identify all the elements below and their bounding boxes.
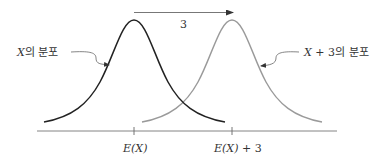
distribution-shift-diagram: 3 X의 분포 X + 3의 분포 E(X) E(X) + 3 (0, 0, 375, 166)
label-x-dist: X의 분포 (16, 46, 58, 59)
label-x3-suffix: 의 분포 (335, 46, 369, 59)
label-x3-mid: + 3 (312, 46, 335, 59)
leader-x (71, 52, 109, 65)
curve-x-plus-3 (142, 20, 322, 122)
label-x-plus-3-dist: X + 3의 분포 (303, 46, 369, 59)
axis-label-ex-plus-3: E(X) + 3 (213, 142, 262, 155)
curve-x (44, 20, 225, 122)
label-x-suffix: 의 분포 (25, 46, 59, 59)
leader-x-plus-3 (261, 52, 299, 66)
axis-label-ex: E(X) (122, 142, 147, 155)
shift-label: 3 (180, 18, 187, 31)
